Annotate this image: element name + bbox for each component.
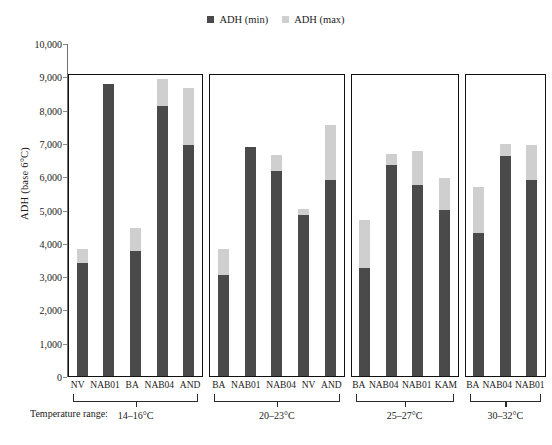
legend-item-adh-max: ADH (max) (282, 14, 344, 25)
y-axis-tick-label: 0 (18, 372, 62, 383)
bar-nab04-g1 (157, 79, 168, 376)
y-axis-tick-label: 6,000 (18, 172, 62, 183)
bar-segment-max (183, 88, 194, 145)
chart-legend: ADH (min) ADH (max) (0, 14, 552, 25)
y-axis-tick-mark (63, 310, 67, 311)
y-axis-tick-mark (63, 177, 67, 178)
temperature-brace-row: 14–16°C20–23°C25–27°C30–32°C (68, 394, 546, 434)
bar-segment-min (412, 185, 423, 376)
bar-and-g2 (325, 125, 336, 376)
y-axis-tick-mark (63, 377, 67, 378)
bar-segment-min (439, 210, 450, 377)
temperature-range-label: 25–27°C (351, 410, 459, 421)
bar-segment-max (271, 155, 282, 172)
bar-segment-min (130, 251, 141, 376)
bar-ba-g2 (218, 249, 229, 376)
bar-nab04-g4 (500, 144, 511, 376)
y-axis-tick-mark (63, 244, 67, 245)
y-axis-tick-label: 3,000 (18, 272, 62, 283)
bar-segment-max (218, 249, 229, 275)
y-axis-tick-mark (63, 111, 67, 112)
bar-segment-min (183, 145, 194, 376)
y-axis-tick-label: 5,000 (18, 205, 62, 216)
brace-icon (214, 394, 339, 402)
temperature-group-3: 25–27°C (351, 394, 459, 434)
bar-segment-min (325, 180, 336, 376)
y-axis-tick-mark (63, 211, 67, 212)
category-group-1: NVNAB01BANAB04AND (68, 379, 203, 393)
category-label-nab01: NAB01 (231, 379, 261, 391)
bar-nv-g1 (77, 249, 88, 376)
temperature-group-2: 20–23°C (209, 394, 344, 434)
bar-nab01-g1 (103, 84, 114, 376)
bar-segment-min (218, 275, 229, 376)
category-label-nab04: NAB04 (266, 379, 296, 391)
bar-segment-min (271, 171, 282, 376)
legend-label-max: ADH (max) (294, 14, 344, 25)
category-label-and: AND (180, 379, 201, 391)
legend-item-adh-min: ADH (min) (207, 14, 268, 25)
chart-container: ADH (min) ADH (max) ADH (base 6°C) 10,00… (0, 0, 552, 445)
bar-segment-max (526, 145, 537, 180)
bar-groups (68, 44, 546, 377)
category-label-and: AND (321, 379, 342, 391)
category-label-ba: BA (352, 379, 365, 391)
y-axis-tick-mark (63, 77, 67, 78)
y-axis-tick-label: 1,000 (18, 338, 62, 349)
legend-label-min: ADH (min) (219, 14, 268, 25)
y-axis-tick-label: 7,000 (18, 138, 62, 149)
bar-segment-max (130, 228, 141, 251)
y-axis-tick-mark (63, 277, 67, 278)
plot-area (68, 44, 546, 377)
category-group-2: BANAB01NAB04NVAND (209, 379, 344, 393)
bar-nab04-g3 (386, 154, 397, 376)
bar-segment-max (359, 220, 370, 268)
category-label-ba: BA (126, 379, 139, 391)
bar-segment-max (325, 125, 336, 180)
bar-segment-min (157, 106, 168, 376)
y-axis-tick-label: 4,000 (18, 238, 62, 249)
y-axis-tick-mark (63, 44, 67, 45)
bar-segment-min (359, 268, 370, 376)
bar-ba-g1 (130, 228, 141, 376)
y-axis-tick-label: 10,000 (18, 39, 62, 50)
bar-segment-max (412, 151, 423, 185)
bar-segment-min (298, 215, 309, 376)
category-label-nv: NV (302, 379, 316, 391)
category-label-ba: BA (466, 379, 479, 391)
bar-segment-max (77, 249, 88, 262)
category-label-row: NVNAB01BANAB04ANDBANAB01NAB04NVANDBANAB0… (68, 379, 546, 393)
bar-ba-g3 (359, 220, 370, 377)
bar-segment-min (245, 147, 256, 376)
bar-nab01-g3 (412, 151, 423, 376)
bar-segment-max (298, 209, 309, 216)
category-label-nab04: NAB04 (482, 379, 512, 391)
bar-segment-max (439, 178, 450, 210)
bar-segment-min (526, 180, 537, 376)
legend-swatch-max (282, 16, 289, 23)
brace-icon (73, 394, 198, 402)
category-label-nab01: NAB01 (402, 379, 432, 391)
category-label-nv: NV (71, 379, 85, 391)
bar-group-2 (209, 74, 344, 377)
bar-segment-min (77, 263, 88, 376)
legend-swatch-min (207, 16, 214, 23)
temperature-range-label: 30–32°C (465, 410, 546, 421)
category-label-kam: KAM (435, 379, 457, 391)
bar-segment-max (500, 144, 511, 156)
bar-segment-min (386, 165, 397, 376)
bar-segment-min (103, 84, 114, 376)
bar-segment-min (500, 156, 511, 376)
bar-and-g1 (183, 88, 194, 376)
y-axis-tick-mark (63, 144, 67, 145)
bar-group-1 (68, 74, 203, 377)
temperature-range-label: 20–23°C (209, 410, 344, 421)
category-group-4: BANAB04NAB01 (465, 379, 546, 393)
y-axis-tick-label: 2,000 (18, 305, 62, 316)
category-group-3: BANAB04NAB01KAM (351, 379, 459, 393)
temperature-range-caption: Temperature range: (30, 408, 108, 419)
temperature-group-4: 30–32°C (465, 394, 546, 434)
brace-icon (356, 394, 454, 402)
bar-segment-min (473, 233, 484, 376)
y-axis-tick-label: 8,000 (18, 105, 62, 116)
